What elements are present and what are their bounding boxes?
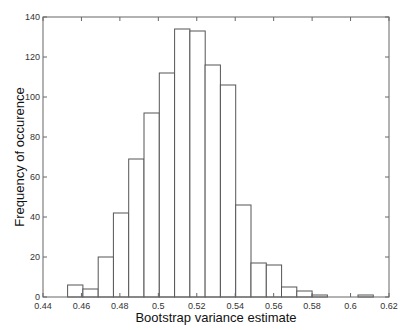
histogram-bar [297,291,312,297]
histogram-bar [190,31,205,297]
x-tick-label: 0.58 [303,301,321,311]
x-axis-label: Bootstrap variance estimate [135,310,296,325]
histogram-bar [266,265,281,297]
x-tick-label: 0.46 [73,301,91,311]
x-tick-label: 0.48 [111,301,129,311]
histogram-bar [175,29,190,297]
histogram-bar [98,257,113,297]
histogram-bar [68,285,83,297]
histogram-bar [113,213,128,297]
x-tick-label: 0.6 [344,301,357,311]
histogram-bar [251,263,266,297]
histogram-bar [129,159,144,297]
histogram-bars [68,29,374,297]
y-tick-label: 100 [25,92,40,102]
y-tick-label: 40 [30,212,40,222]
histogram-bar [282,287,297,297]
x-tick-label: 0.44 [34,301,52,311]
histogram-bar [144,113,159,297]
x-tick-label: 0.62 [380,301,398,311]
y-tick-label: 80 [30,132,40,142]
histogram-chart: 0.440.460.480.50.520.540.560.580.60.62 0… [0,0,411,330]
y-axis-label: Frequency of occurence [12,87,27,226]
histogram-bar [205,65,220,297]
y-tick-label: 140 [25,12,40,22]
histogram-bar [159,73,174,297]
y-tick-label: 60 [30,172,40,182]
y-tick-label: 20 [30,252,40,262]
y-tick-label: 120 [25,52,40,62]
y-tick-label: 0 [35,292,40,302]
histogram-bar [83,289,98,297]
histogram-bar [236,205,251,297]
histogram-bar [220,85,235,297]
